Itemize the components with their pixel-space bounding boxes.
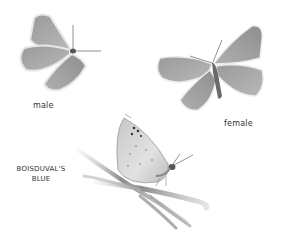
male-butterfly	[20, 14, 101, 90]
male-label: male	[33, 101, 54, 111]
grass-tip	[125, 114, 131, 118]
female-butterfly	[157, 26, 263, 111]
species-label-line1: BOISDUVAL'S	[16, 164, 66, 174]
species-label: BOISDUVAL'S BLUE	[16, 164, 66, 184]
female-label: female	[224, 119, 253, 129]
perched-butterfly	[117, 118, 193, 186]
illustration-canvas: male female BOISDUVAL'S BLUE	[0, 0, 282, 237]
species-label-line2: BLUE	[16, 174, 66, 184]
